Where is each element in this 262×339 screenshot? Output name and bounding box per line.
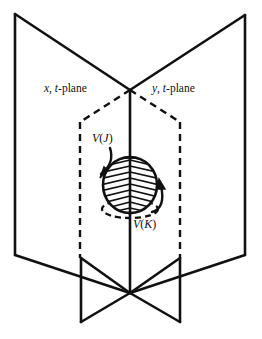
right-plane-top-edge [130, 15, 245, 90]
v-k-close-paren: ) [152, 217, 156, 231]
dashed-top-left-edge [80, 90, 130, 122]
right-wing-lower-edge [130, 293, 180, 322]
right-plane-label: y, t-plane [152, 83, 195, 95]
left-plane-label-suffix: -plane [58, 82, 87, 94]
v-k-label: V(K) [133, 218, 156, 230]
right-plane-label-suffix: -plane [166, 82, 195, 94]
v-j-close-paren: ) [109, 131, 113, 145]
left-wing-lower-edge [81, 293, 130, 322]
dashed-top-right-edge [130, 90, 180, 122]
right-plane-shape [130, 15, 245, 293]
v-j-label: V(J) [92, 132, 113, 144]
arrow-vk-head [157, 179, 165, 189]
right-plane-bottom-edge [130, 255, 245, 293]
left-plane-shape [15, 14, 130, 293]
left-plane-label: x, t-plane [44, 83, 87, 95]
left-plane-top-edge [15, 14, 130, 90]
left-wing-inner-edge [81, 258, 130, 293]
geometry-diagram [0, 0, 262, 339]
left-plane-bottom-edge [15, 255, 130, 293]
figure-container: x, t-plane y, t-plane V(J) V(K) [0, 0, 262, 339]
right-wing-inner-edge [130, 258, 180, 293]
